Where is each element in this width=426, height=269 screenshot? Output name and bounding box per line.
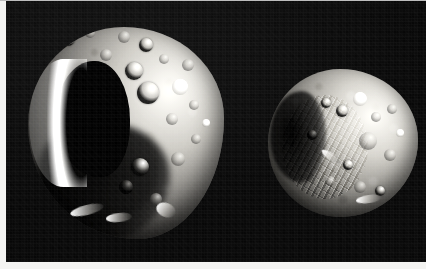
moon-left-crater: [118, 31, 130, 43]
moon-left-crater: [159, 54, 169, 64]
moon-right-crater: [396, 129, 404, 137]
moon-right-body: [268, 69, 418, 217]
moon-left-crater: [166, 113, 178, 125]
moon-right-crater: [387, 104, 397, 114]
moon-right-crater: [371, 112, 381, 122]
moon-left-crater: [100, 49, 112, 61]
moon-left-crater: [61, 32, 75, 46]
moon-right-crater: [336, 105, 348, 117]
print-border-bottom: [0, 262, 426, 269]
moon-right-crater: [384, 149, 396, 161]
moon-left-crater: [131, 158, 149, 176]
moon-left-crater: [191, 134, 201, 144]
moon-right-crater: [325, 176, 335, 186]
moon-right-crater: [354, 181, 366, 193]
moon-left-body: [28, 27, 224, 239]
moon-left-crater: [171, 152, 185, 166]
print-border-top: [0, 0, 426, 1]
moon-left-crater: [182, 59, 194, 71]
moon-right-crater: [321, 98, 331, 108]
print-border-left: [3, 0, 6, 269]
photograph-frame: Two irregular cratered moons photographe…: [0, 0, 426, 269]
moon-left-crater: [119, 180, 133, 194]
moon-left-crater: [202, 119, 210, 127]
moon-right-crater: [353, 92, 367, 106]
moon-left-crater: [125, 62, 143, 80]
moon-left-crater: [137, 82, 159, 104]
moon-right: [268, 69, 418, 217]
moon-left-crater: [85, 28, 95, 38]
moon-left-crater: [139, 38, 153, 52]
moon-right-crater: [307, 130, 317, 140]
moon-left-crater: [189, 100, 199, 110]
space-background: [6, 1, 426, 262]
moon-left: [28, 27, 224, 239]
moon-right-crater: [359, 132, 377, 150]
moon-left-crater: [172, 79, 188, 95]
moon-right-crater: [343, 160, 353, 170]
moon-right-shadowed-flank: [270, 91, 326, 183]
